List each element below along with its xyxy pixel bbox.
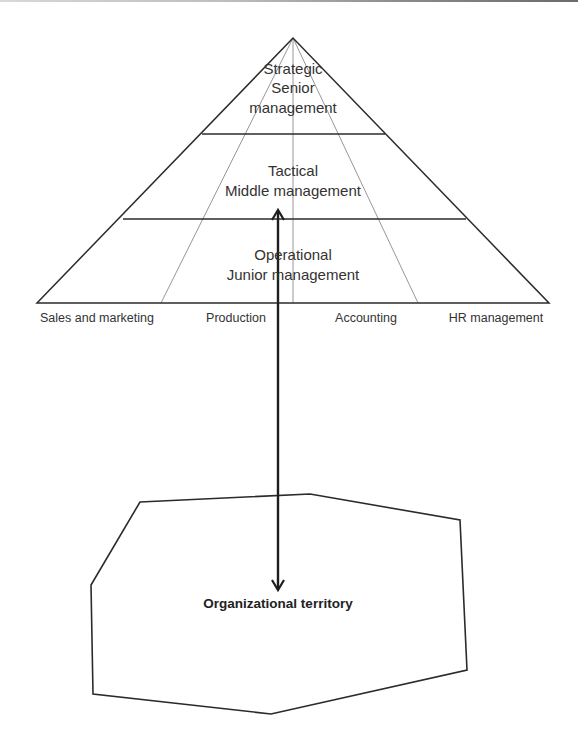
tier-tactical-role: Middle management bbox=[225, 183, 361, 198]
tier-operational-level: Operational bbox=[254, 247, 332, 262]
tier-strategic-role-line2: management bbox=[249, 100, 337, 115]
department-accounting: Accounting bbox=[335, 312, 397, 325]
tier-strategic-level: Strategic bbox=[263, 61, 322, 76]
tier-operational-role: Junior management bbox=[227, 267, 360, 282]
tier-tactical-level: Tactical bbox=[268, 163, 318, 178]
department-hr-management: HR management bbox=[449, 312, 544, 325]
tier-strategic-role-line1: Senior bbox=[271, 80, 314, 95]
organizational-territory-label: Organizational territory bbox=[203, 597, 352, 611]
department-sales-and-marketing: Sales and marketing bbox=[40, 312, 154, 325]
department-production: Production bbox=[206, 312, 266, 325]
